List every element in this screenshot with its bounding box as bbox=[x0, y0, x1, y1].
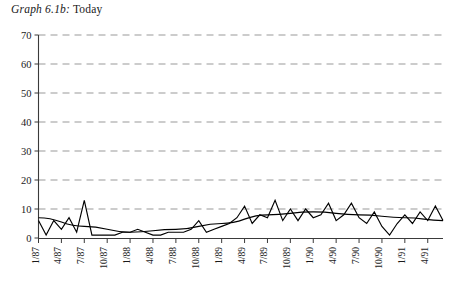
x-tick-label: 1/90 bbox=[305, 247, 315, 264]
x-tick-label: 7/88 bbox=[168, 247, 178, 264]
y-tick-label: 70 bbox=[21, 30, 32, 41]
trend-line bbox=[39, 212, 444, 232]
y-axis-group: 010203040506070 bbox=[21, 30, 39, 244]
x-axis-group: 1/874/877/8710/871/884/887/8810/881/894/… bbox=[31, 238, 430, 269]
gridlines-group bbox=[39, 35, 444, 209]
x-tick-label: 1/89 bbox=[214, 247, 224, 264]
y-tick-label: 20 bbox=[21, 175, 32, 186]
x-tick-label: 4/88 bbox=[145, 247, 155, 264]
x-tick-label: 10/90 bbox=[374, 247, 384, 269]
y-tick-label: 60 bbox=[21, 59, 32, 70]
y-tick-label: 50 bbox=[21, 88, 32, 99]
data-series-line bbox=[39, 200, 444, 235]
x-tick-label: 4/91 bbox=[420, 247, 430, 264]
chart-plot: 010203040506070 1/874/877/8710/871/884/8… bbox=[0, 0, 468, 282]
y-tick-label: 40 bbox=[21, 117, 32, 128]
x-tick-label: 10/87 bbox=[99, 247, 109, 269]
x-tick-label: 10/88 bbox=[191, 247, 201, 269]
x-tick-label: 4/90 bbox=[328, 247, 338, 264]
x-tick-label: 7/90 bbox=[351, 247, 361, 264]
x-tick-label: 1/91 bbox=[397, 247, 407, 264]
x-tick-label: 4/89 bbox=[237, 247, 247, 264]
x-tick-label: 7/87 bbox=[76, 247, 86, 264]
x-tick-label: 4/87 bbox=[53, 247, 63, 264]
y-tick-label: 10 bbox=[21, 204, 32, 215]
x-tick-label: 1/88 bbox=[122, 247, 132, 264]
x-tick-label: 7/89 bbox=[259, 247, 269, 264]
y-tick-label: 0 bbox=[26, 233, 31, 244]
chart-root: Graph 6.1b: Today 010203040506070 1/874/… bbox=[0, 0, 468, 282]
x-tick-label: 1/87 bbox=[31, 247, 41, 264]
y-tick-label: 30 bbox=[21, 146, 32, 157]
x-tick-label: 10/89 bbox=[282, 247, 292, 269]
